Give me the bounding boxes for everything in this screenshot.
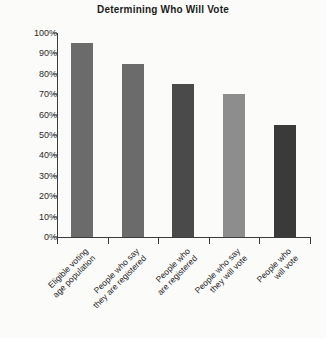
chart-container: Determining Who Will Vote 100%90%80%70%6… <box>0 0 326 338</box>
x-axis-label: People whowill vote <box>254 246 300 292</box>
x-axis-label: People whoare registered <box>147 246 198 297</box>
x-axis-labels: Eligible votingage populationPeople who … <box>0 0 326 338</box>
x-axis-label: People who saythey will vote <box>193 246 250 303</box>
